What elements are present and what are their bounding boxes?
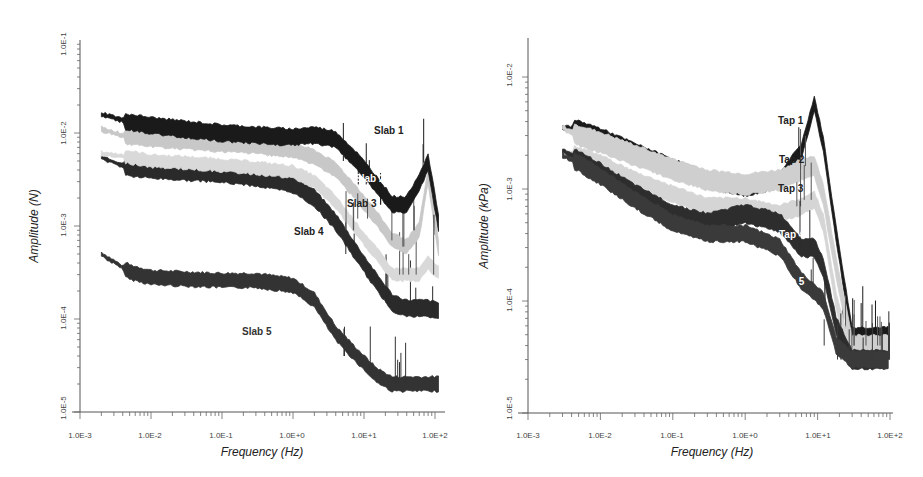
- right-ytick-label: 1.0E-5: [505, 396, 514, 420]
- right-ytick-label: 1.0E-4: [505, 288, 514, 312]
- chart-canvas: 1.0E-1 1.0E-2 1.0E-3 1.0E-4 1.0E-5 1.0E-…: [0, 0, 923, 477]
- left-xtick-label: 1.0E-3: [68, 431, 92, 440]
- slab-1-label: Slab 1: [374, 125, 404, 136]
- tap-3-label: Tap 3: [778, 183, 804, 194]
- slab-2-label: Slab 2: [355, 173, 385, 184]
- left-x-ticks: [80, 412, 435, 419]
- right-xtick-label: 1.0E-2: [588, 431, 612, 440]
- left-xtick-label: 1.0E+0: [279, 431, 305, 440]
- left-series-bands: [101, 112, 438, 392]
- right-y-ticks: [522, 77, 528, 413]
- right-ytick-label: 1.0E-2: [505, 63, 514, 87]
- slab-3-label: Slab 3: [347, 198, 377, 209]
- left-xtick-label: 1.0E+1: [351, 431, 377, 440]
- left-xtick-label: 1.0E+2: [422, 431, 448, 440]
- right-y-axis-title: Amplitude (kPa): [477, 183, 491, 269]
- right-series-bands: [563, 96, 890, 370]
- right-ytick-label: 1.0E-3: [505, 177, 514, 201]
- left-chart: 1.0E-1 1.0E-2 1.0E-3 1.0E-4 1.0E-5 1.0E-…: [27, 32, 448, 459]
- left-ytick-label: 1.0E-5: [59, 396, 68, 420]
- right-x-axis-title: Frequency (Hz): [671, 445, 754, 459]
- tap-4-label: Tap 4: [779, 229, 805, 240]
- right-xtick-label: 1.0E+0: [732, 431, 758, 440]
- left-y-ticks: [74, 44, 80, 412]
- left-x-axis-title: Frequency (Hz): [221, 445, 304, 459]
- left-ytick-label: 1.0E-2: [59, 121, 68, 145]
- left-xtick-label: 1.0E-1: [209, 431, 233, 440]
- slab-5-label: Slab 5: [242, 326, 272, 337]
- right-xtick-label: 1.0E+2: [877, 431, 903, 440]
- left-xtick-label: 1.0E-2: [138, 431, 162, 440]
- right-xtick-label: 1.0E-3: [516, 431, 540, 440]
- right-xtick-label: 1.0E-1: [660, 431, 684, 440]
- left-ytick-label: 1.0E-3: [59, 213, 68, 237]
- tap-1-label: Tap 1: [778, 115, 804, 126]
- slab-4-label: Slab 4: [294, 226, 324, 237]
- right-x-ticks: [528, 413, 890, 420]
- left-ytick-label: 1.0E-1: [59, 32, 68, 56]
- left-ytick-label: 1.0E-4: [59, 306, 68, 330]
- tap-2-label: Tap 2: [779, 154, 805, 165]
- right-chart: 1.0E-2 1.0E-3 1.0E-4 1.0E-5 1.0E-3 1.0E-…: [477, 38, 903, 459]
- tap-5-label: Tap 5: [779, 276, 805, 287]
- left-y-axis-title: Amplitude (N): [27, 189, 41, 263]
- right-xtick-label: 1.0E+1: [805, 431, 831, 440]
